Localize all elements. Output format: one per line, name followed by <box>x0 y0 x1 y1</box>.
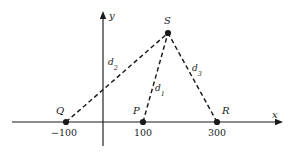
tick-minus-100: −100 <box>34 128 94 138</box>
points-group <box>63 30 220 125</box>
point-p <box>140 119 146 125</box>
y-axis-label: y <box>109 11 115 21</box>
distance-label-d3-base: d <box>192 63 198 73</box>
distance-label-d3-subscript: 3 <box>198 70 202 78</box>
distance-label-d1-subscript: 1 <box>161 90 165 98</box>
dashed-segments-group <box>66 33 217 122</box>
point-s <box>165 30 171 36</box>
axes-group <box>12 11 283 146</box>
distance-label-d1: d1 <box>155 84 165 95</box>
distance-label-d2: d2 <box>108 58 118 69</box>
x-axis-label: x <box>272 110 278 120</box>
point-label-r: R <box>222 106 230 116</box>
segment-d2 <box>66 33 168 122</box>
point-r <box>214 119 220 125</box>
distance-label-d3: d3 <box>192 64 202 75</box>
distance-label-d2-subscript: 2 <box>114 64 118 72</box>
segment-d1 <box>143 33 168 122</box>
y-axis-arrowhead <box>100 11 106 19</box>
tick-100: 100 <box>113 128 173 138</box>
point-q <box>63 119 69 125</box>
tick-300: 300 <box>187 128 247 138</box>
distance-label-d1-base: d <box>155 83 161 93</box>
segment-d3 <box>168 33 217 122</box>
distance-label-d2-base: d <box>108 57 114 67</box>
coordinate-diagram: x y −100100300 QPRS d2d1d3 <box>0 0 291 157</box>
point-label-p: P <box>133 106 140 116</box>
point-label-q: Q <box>56 106 64 116</box>
point-label-s: S <box>164 16 171 26</box>
